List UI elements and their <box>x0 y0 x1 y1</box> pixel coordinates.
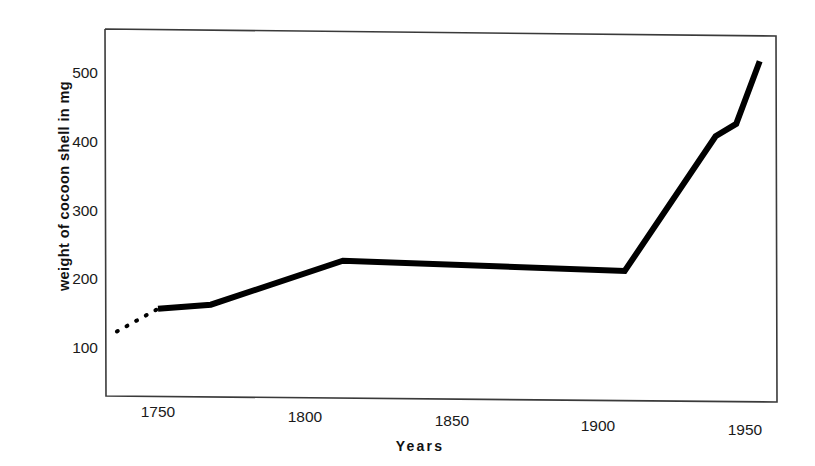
plot-frame <box>105 29 777 402</box>
chart-figure: weight of cocoon shell in mg 500 400 300… <box>0 0 815 466</box>
plot-area <box>0 0 815 466</box>
data-line-solid <box>158 61 760 308</box>
data-line-dotted-segment <box>117 309 158 332</box>
